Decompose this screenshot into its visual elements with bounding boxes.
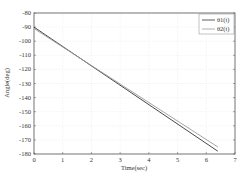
data-series bbox=[34, 27, 218, 151]
legend-label-theta1: θ1(t) bbox=[217, 16, 230, 24]
y-tick-label: -170 bbox=[19, 136, 31, 143]
x-tick-label: 0 bbox=[32, 156, 35, 163]
y-axis-label: Angle(deg) bbox=[3, 68, 11, 98]
x-axis-label: Time(sec) bbox=[121, 164, 147, 172]
x-tick-label: 4 bbox=[147, 156, 151, 163]
x-tick-label: 6 bbox=[205, 156, 209, 163]
y-tick-label: -150 bbox=[19, 108, 31, 115]
y-tick-label: -120 bbox=[19, 65, 31, 72]
legend-label-theta2: θ2(t) bbox=[217, 25, 230, 33]
series-line-2 bbox=[34, 29, 218, 147]
y-tick-label: -180 bbox=[19, 150, 31, 157]
x-tick-label: 2 bbox=[90, 156, 93, 163]
y-tick-label: -160 bbox=[19, 122, 31, 129]
x-tick-label: 5 bbox=[176, 156, 179, 163]
y-tick-label: -110 bbox=[19, 51, 31, 58]
y-tick-label: -90 bbox=[22, 23, 31, 30]
line-chart: 01234567-80-90-100-110-120-130-140-150-1… bbox=[0, 0, 248, 175]
x-tick-label: 1 bbox=[61, 156, 64, 163]
y-tick-label: -100 bbox=[19, 37, 31, 44]
series-line-1 bbox=[34, 27, 218, 151]
y-tick-label: -130 bbox=[19, 80, 31, 87]
x-tick-label: 3 bbox=[119, 156, 122, 163]
x-tick-label: 7 bbox=[233, 156, 237, 163]
legend: θ1(t) θ2(t) bbox=[199, 14, 234, 34]
y-tick-label: -140 bbox=[19, 94, 31, 101]
y-tick-label: -80 bbox=[22, 9, 31, 16]
